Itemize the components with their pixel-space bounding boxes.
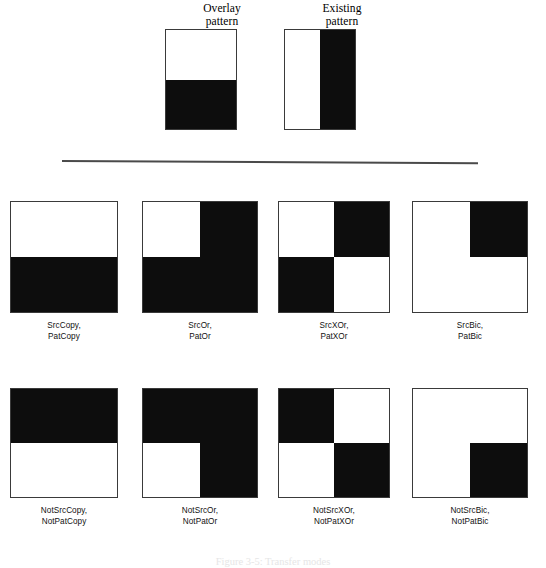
transfer-mode-label-line2: PatXOr	[278, 331, 390, 342]
transfer-mode-label-line2: PatBic	[412, 331, 528, 342]
quadrant-bottom-left	[11, 257, 64, 312]
header-row: Overlay pattern Existing pattern	[0, 0, 546, 146]
quadrant-bottom-left	[279, 443, 334, 497]
quadrant-bottom-right	[201, 80, 236, 130]
quadrant-bottom-right	[64, 257, 117, 312]
transfer-mode-label-line1: NotSrcOr,	[142, 505, 258, 516]
quadrant-bottom-right	[200, 257, 257, 312]
horizontal-divider	[62, 160, 478, 165]
transfer-mode-label: SrcBic,PatBic	[412, 320, 528, 342]
existing-pattern-swatch	[284, 29, 356, 130]
quadrant-top-left	[413, 389, 470, 443]
transfer-mode-label-line2: NotPatBic	[412, 516, 528, 527]
transfer-mode-swatch	[142, 201, 258, 313]
quadrant-top-left	[11, 202, 64, 257]
quadrant-bottom-right	[64, 443, 117, 497]
quadrant-top-left	[285, 30, 320, 80]
overlay-pattern-title: Overlay pattern	[185, 2, 259, 27]
quadrant-bottom-left	[11, 443, 64, 497]
transfer-mode-label-line2: NotPatCopy	[10, 516, 118, 527]
transfer-mode-cell: NotSrcOr,NotPatOr	[142, 388, 258, 527]
transfer-mode-label-line2: PatCopy	[10, 331, 118, 342]
transfer-mode-cell: NotSrcCopy,NotPatCopy	[10, 388, 118, 527]
transfer-mode-label-line1: SrcCopy,	[10, 320, 118, 331]
quadrant-top-left	[279, 389, 334, 443]
transfer-mode-swatch	[412, 201, 528, 313]
quadrant-bottom-right	[470, 443, 527, 497]
transfer-mode-swatch	[412, 388, 528, 498]
quadrant-top-left	[166, 30, 201, 80]
quadrant-bottom-left	[279, 257, 334, 312]
quadrant-top-right	[334, 389, 389, 443]
quadrant-top-right	[200, 389, 257, 443]
transfer-mode-cell: SrcCopy,PatCopy	[10, 201, 118, 342]
transfer-mode-label-line2: NotPatXOr	[278, 516, 390, 527]
quadrant-bottom-right	[320, 80, 355, 130]
figure-caption: Figure 3-5: Transfer modes	[0, 556, 546, 568]
quadrant-bottom-left	[413, 257, 470, 312]
header-cell-overlay: Overlay pattern	[157, 2, 287, 27]
quadrant-top-right	[64, 389, 117, 443]
transfer-mode-label-line2: NotPatOr	[142, 516, 258, 527]
transfer-mode-label-line1: SrcBic,	[412, 320, 528, 331]
transfer-mode-label-line1: NotSrcBic,	[412, 505, 528, 516]
transfer-mode-label-line1: SrcXOr,	[278, 320, 390, 331]
quadrant-bottom-left	[285, 80, 320, 130]
transfer-mode-label-line2: PatOr	[142, 331, 258, 342]
transfer-mode-cell: NotSrcBic,NotPatBic	[412, 388, 528, 527]
quadrant-top-left	[11, 389, 64, 443]
transfer-mode-label: SrcXOr,PatXOr	[278, 320, 390, 342]
quadrant-bottom-left	[143, 443, 200, 497]
transfer-mode-swatch	[278, 201, 390, 313]
existing-pattern-title-line1: Existing	[305, 2, 379, 15]
transfer-mode-label: NotSrcXOr,NotPatXOr	[278, 505, 390, 527]
quadrant-bottom-left	[143, 257, 200, 312]
quadrant-top-left	[143, 202, 200, 257]
transfer-mode-cell: NotSrcXOr,NotPatXOr	[278, 388, 390, 527]
quadrant-top-right	[200, 202, 257, 257]
transfer-mode-label: NotSrcCopy,NotPatCopy	[10, 505, 118, 527]
quadrant-bottom-right	[470, 257, 527, 312]
transfer-mode-label-line1: SrcOr,	[142, 320, 258, 331]
quadrant-top-left	[143, 389, 200, 443]
header-cell-existing: Existing pattern	[277, 2, 407, 27]
overlay-pattern-title-line2: pattern	[185, 15, 259, 28]
transfer-mode-swatch	[10, 388, 118, 498]
existing-pattern-title-line2: pattern	[305, 15, 379, 28]
quadrant-top-right	[320, 30, 355, 80]
transfer-mode-label: SrcCopy,PatCopy	[10, 320, 118, 342]
overlay-pattern-swatch	[165, 29, 237, 130]
existing-pattern-title: Existing pattern	[305, 2, 379, 27]
quadrant-top-right	[470, 389, 527, 443]
transfer-mode-swatch	[10, 201, 118, 313]
quadrant-top-right	[470, 202, 527, 257]
transfer-mode-label-line1: NotSrcXOr,	[278, 505, 390, 516]
transfer-mode-label-line1: NotSrcCopy,	[10, 505, 118, 516]
transfer-mode-label: NotSrcBic,NotPatBic	[412, 505, 528, 527]
transfer-mode-label: NotSrcOr,NotPatOr	[142, 505, 258, 527]
quadrant-top-left	[413, 202, 470, 257]
quadrant-top-right	[334, 202, 389, 257]
transfer-mode-label: SrcOr,PatOr	[142, 320, 258, 342]
quadrant-top-right	[201, 30, 236, 80]
transfer-mode-cell: SrcBic,PatBic	[412, 201, 528, 342]
quadrant-bottom-right	[334, 443, 389, 497]
transfer-mode-cell: SrcOr,PatOr	[142, 201, 258, 342]
quadrant-bottom-left	[166, 80, 201, 130]
transfer-mode-swatch	[278, 388, 390, 498]
quadrant-bottom-right	[334, 257, 389, 312]
transfer-mode-swatch	[142, 388, 258, 498]
quadrant-bottom-left	[413, 443, 470, 497]
quadrant-bottom-right	[200, 443, 257, 497]
overlay-pattern-title-line1: Overlay	[185, 2, 259, 15]
quadrant-top-left	[279, 202, 334, 257]
transfer-mode-cell: SrcXOr,PatXOr	[278, 201, 390, 342]
quadrant-top-right	[64, 202, 117, 257]
